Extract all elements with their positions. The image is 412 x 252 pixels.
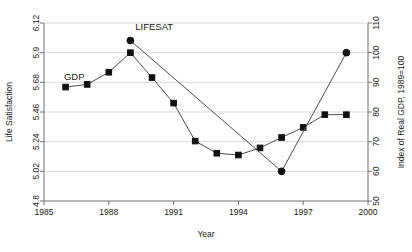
- y2-tick-label: 110: [371, 16, 381, 30]
- x-tick-label: 1988: [99, 207, 118, 217]
- x-tick-label: 1994: [229, 207, 248, 217]
- data-point-gdp: [214, 150, 220, 156]
- data-point-lifesat: [278, 168, 285, 175]
- annotation-gdp: GDP: [64, 71, 85, 82]
- data-point-gdp: [171, 100, 177, 106]
- y-tick-label: 4.8: [31, 195, 41, 207]
- data-point-lifesat: [127, 37, 134, 44]
- y2-tick-label: 100: [371, 45, 381, 59]
- gridlines: [45, 23, 367, 171]
- y2-tick-label: 60: [371, 166, 381, 176]
- chart-container: 4.85.025.245.465.685.96.12 5060708090100…: [0, 0, 412, 252]
- y-tick-label: 6.12: [31, 14, 41, 31]
- series-line-lifesat: [130, 41, 346, 172]
- data-point-gdp: [192, 138, 198, 144]
- y-tick-label: 5.68: [31, 74, 41, 91]
- data-point-gdp: [236, 152, 242, 158]
- y-tick-label: 5.02: [31, 163, 41, 180]
- data-point-gdp: [322, 112, 328, 118]
- data-point-gdp: [106, 69, 112, 75]
- left-axis-ticks: 4.85.025.245.465.685.96.12: [31, 14, 44, 206]
- right-axis-ticks: 5060708090100110: [368, 16, 381, 206]
- y2-tick-label: 50: [371, 196, 381, 206]
- x-axis-title: Year: [197, 229, 214, 239]
- data-point-gdp: [149, 75, 155, 81]
- series-line-gdp: [66, 53, 347, 155]
- y2-axis-title: Index of Real GDP, 1989=100: [396, 55, 406, 168]
- x-tick-label: 1985: [35, 207, 54, 217]
- series-annotations: GDPLIFESAT: [64, 21, 173, 82]
- y-tick-label: 5.9: [31, 46, 41, 58]
- data-point-gdp: [128, 50, 134, 56]
- x-tick-label: 2000: [359, 207, 378, 217]
- annotation-lifesat: LIFESAT: [135, 21, 173, 32]
- y2-tick-label: 90: [371, 77, 381, 87]
- x-tick-label: 1991: [164, 207, 183, 217]
- data-point-lifesat: [343, 49, 350, 56]
- y2-tick-label: 70: [371, 137, 381, 147]
- x-tick-label: 1997: [294, 207, 313, 217]
- chart-svg: 4.85.025.245.465.685.96.12 5060708090100…: [0, 0, 412, 252]
- y-axis-title: Life Satisfaction: [4, 82, 14, 142]
- data-point-gdp: [84, 82, 90, 88]
- y-tick-label: 5.46: [31, 103, 41, 120]
- data-point-gdp: [344, 112, 350, 118]
- data-point-gdp: [257, 145, 263, 151]
- y-tick-label: 5.24: [31, 133, 41, 150]
- data-point-gdp: [279, 135, 285, 141]
- data-series-layer: [63, 37, 350, 175]
- data-point-gdp: [63, 84, 69, 90]
- x-axis-ticks: 198519881991199419972000: [35, 201, 378, 217]
- y2-tick-label: 80: [371, 107, 381, 117]
